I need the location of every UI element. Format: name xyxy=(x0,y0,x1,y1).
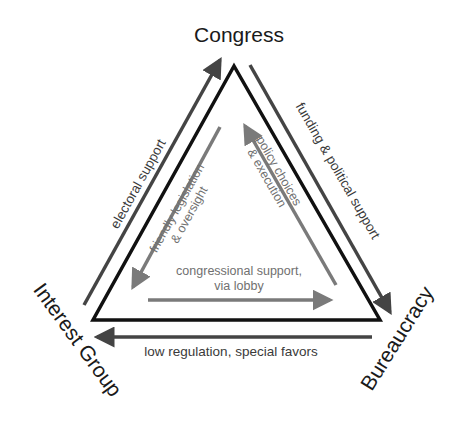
label-congressional-support-line1: congressional support, xyxy=(176,264,302,278)
node-congress: Congress xyxy=(194,23,284,46)
iron-triangle-diagram: Congress Interest Group Bureaucracy elec… xyxy=(0,0,465,427)
label-low-regulation: low regulation, special favors xyxy=(144,344,318,359)
label-congressional-support-line2: via lobby xyxy=(214,279,264,293)
node-interest-group: Interest Group xyxy=(29,279,127,401)
label-electoral-support: electoral support xyxy=(107,136,169,231)
